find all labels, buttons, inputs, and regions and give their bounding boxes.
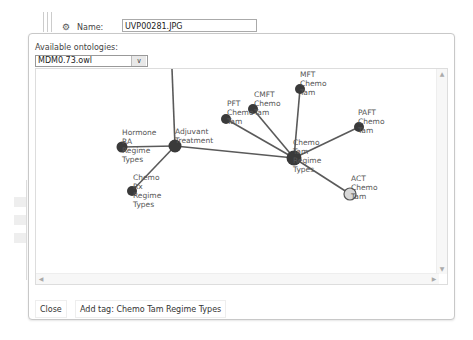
ontologies-label: Available ontologies: [35,43,118,52]
graph-labels: AdjuvantTreatment HormoneRARegimeTypes C… [121,70,385,209]
vertical-scrollbar[interactable]: ▲ ▼ [436,69,447,274]
tree-guide-lines [43,12,53,32]
svg-text:ChemoTamRegimeTypes: ChemoTamRegimeTypes [292,138,322,174]
side-tab[interactable] [14,215,26,225]
scroll-up-icon[interactable]: ▲ [437,69,447,79]
ontology-select-value: MDM0.73.owl [38,56,92,65]
name-input[interactable]: UVP00281.JPG [122,19,257,32]
scroll-right-icon[interactable]: ▶ [429,274,439,284]
svg-text:ChemoRxRegimeTypes: ChemoRxRegimeTypes [132,173,162,209]
graph-canvas[interactable]: AdjuvantTreatment HormoneRARegimeTypes C… [36,69,448,285]
name-label: Name: [77,23,103,32]
gear-icon: ⚙ [62,23,71,32]
side-tabs [14,197,26,251]
svg-text:AdjuvantTreatment: AdjuvantTreatment [174,127,213,145]
svg-text:PAFTChemoTam: PAFTChemoTam [357,108,385,135]
ontology-select[interactable]: MDM0.73.owl ∨ [35,55,148,67]
side-tab[interactable] [14,233,26,243]
name-row: ⚙ Name: [62,20,103,34]
divider [26,180,27,280]
horizontal-scrollbar[interactable]: ◀ ▶ [36,273,439,284]
add-tag-button[interactable]: Add tag: Chemo Tam Regime Types [75,300,226,318]
side-tab[interactable] [14,197,26,207]
close-button[interactable]: Close [35,300,67,318]
ontology-graph[interactable]: AdjuvantTreatment HormoneRARegimeTypes C… [35,68,448,285]
svg-text:PFTChemoTam: PFTChemoTam [226,99,254,126]
ontology-dialog: Available ontologies: MDM0.73.owl ∨ [28,33,455,320]
scroll-left-icon[interactable]: ◀ [36,274,46,284]
svg-text:CMFTChemoTam: CMFTChemoTam [253,90,281,117]
chevron-down-icon[interactable]: ∨ [131,56,146,66]
svg-text:MFTChemoTam: MFTChemoTam [299,70,327,97]
svg-text:ACTChemoTam: ACTChemoTam [350,174,378,201]
